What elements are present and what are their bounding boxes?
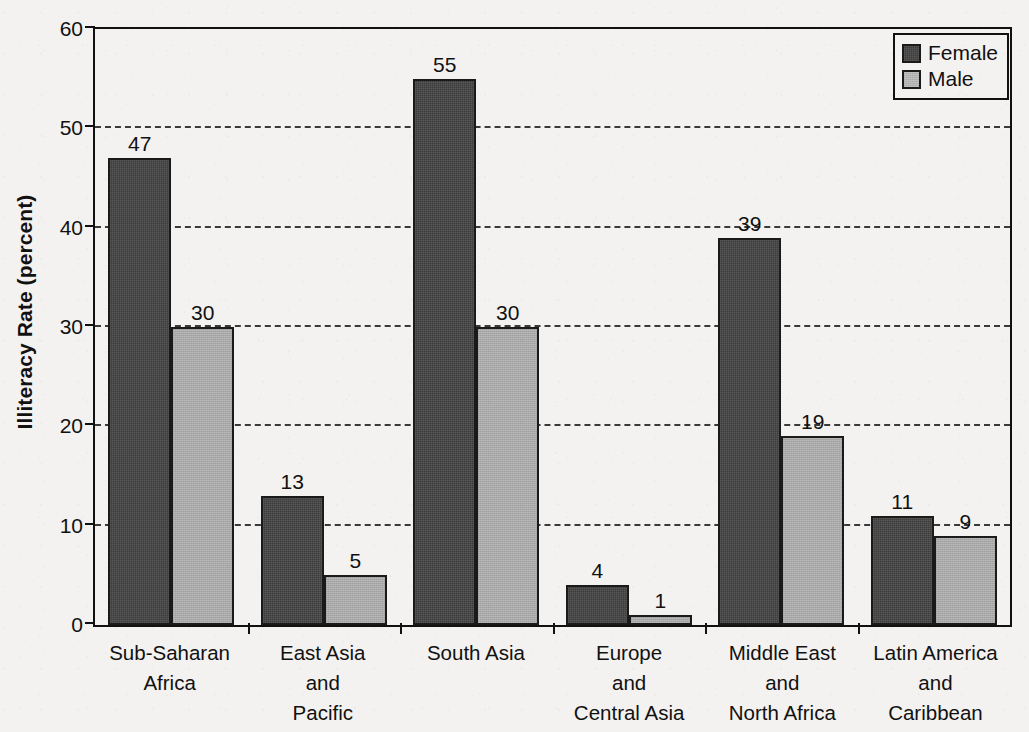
bar-groups: 47301355530413919119: [95, 29, 1010, 625]
x-category-label: Sub-SaharanAfrica: [93, 638, 246, 728]
y-tick-label: 50: [60, 116, 83, 140]
x-category-label: South Asia: [399, 638, 552, 728]
x-category-line: and: [859, 668, 1012, 698]
bar-group: 135: [248, 29, 401, 625]
bar-value-label: 11: [891, 490, 913, 514]
bar-value-label: 30: [191, 301, 214, 325]
x-category-line: Africa: [93, 668, 246, 698]
bar-group: 119: [858, 29, 1011, 625]
y-tick-label: 10: [60, 514, 83, 538]
bar-female[interactable]: 4: [566, 585, 629, 625]
bar-male[interactable]: 30: [476, 327, 539, 625]
plot-area: 0102030405060 47301355530413919119: [93, 27, 1012, 627]
y-tick-mark: [85, 26, 95, 28]
y-tick-label: 0: [71, 613, 83, 637]
y-tick-label: 60: [60, 17, 83, 41]
y-tick-label: 30: [60, 315, 83, 339]
y-tick-label: 40: [60, 216, 83, 240]
y-tick-mark: [85, 622, 95, 624]
bar-value-label: 30: [496, 301, 519, 325]
legend-item-male[interactable]: Male: [902, 66, 998, 92]
bar-male[interactable]: 19: [781, 436, 844, 625]
y-tick-label: 20: [60, 414, 83, 438]
bar-value-label: 47: [128, 132, 151, 156]
y-tick-mark: [85, 225, 95, 227]
x-category-line: and: [706, 668, 859, 698]
bar-female[interactable]: 11: [871, 516, 934, 625]
bar-group: 3919: [705, 29, 858, 625]
bar-male[interactable]: 1: [629, 615, 692, 625]
bar-male[interactable]: 9: [934, 536, 997, 625]
bar-female[interactable]: 47: [108, 158, 171, 625]
x-category-line: Latin America: [859, 638, 1012, 668]
y-axis-title: Illiteracy Rate (percent): [6, 0, 44, 632]
legend-item-female[interactable]: Female: [902, 40, 998, 66]
x-category-line: Middle East: [706, 638, 859, 668]
x-category-line: Central Asia: [553, 698, 706, 728]
bar-group: 4730: [95, 29, 248, 625]
bar-value-label: 39: [738, 212, 761, 236]
bar-value-label: 9: [959, 510, 971, 534]
bar-value-label: 19: [801, 410, 824, 434]
x-category-label: East AsiaandPacific: [246, 638, 399, 728]
x-category-line: Caribbean: [859, 698, 1012, 728]
y-tick-mark: [85, 125, 95, 127]
x-category-line: and: [246, 668, 399, 698]
bar-value-label: 55: [433, 53, 456, 77]
legend-label-female: Female: [928, 41, 998, 65]
male-swatch-icon: [902, 70, 921, 89]
bar-value-label: 1: [654, 589, 666, 613]
bar-value-label: 5: [349, 549, 361, 573]
legend: Female Male: [893, 33, 1009, 100]
chart-page: Illiteracy Rate (percent) 0102030405060 …: [0, 0, 1029, 732]
y-tick-mark: [85, 423, 95, 425]
x-category-label: EuropeandCentral Asia: [553, 638, 706, 728]
x-category-line: and: [553, 668, 706, 698]
bar-value-label: 4: [591, 559, 603, 583]
bar-female[interactable]: 13: [261, 496, 324, 625]
female-swatch-icon: [902, 44, 921, 63]
bar-value-label: 13: [281, 470, 304, 494]
bar-female[interactable]: 39: [718, 238, 781, 625]
bar-male[interactable]: 30: [171, 327, 234, 625]
y-tick-mark: [85, 523, 95, 525]
x-category-line: Sub-Saharan: [93, 638, 246, 668]
x-category-line: Europe: [553, 638, 706, 668]
x-category-line: North Africa: [706, 698, 859, 728]
x-category-label: Latin AmericaandCaribbean: [859, 638, 1012, 728]
x-axis-category-labels: Sub-SaharanAfricaEast AsiaandPacificSout…: [93, 638, 1012, 728]
bar-group: 41: [553, 29, 706, 625]
y-tick-mark: [85, 324, 95, 326]
bar-female[interactable]: 55: [413, 79, 476, 625]
legend-label-male: Male: [928, 67, 974, 91]
bar-male[interactable]: 5: [324, 575, 387, 625]
x-category-line: Pacific: [246, 698, 399, 728]
x-category-label: Middle EastandNorth Africa: [706, 638, 859, 728]
x-category-line: South Asia: [399, 638, 552, 668]
x-category-line: East Asia: [246, 638, 399, 668]
bar-group: 5530: [400, 29, 553, 625]
